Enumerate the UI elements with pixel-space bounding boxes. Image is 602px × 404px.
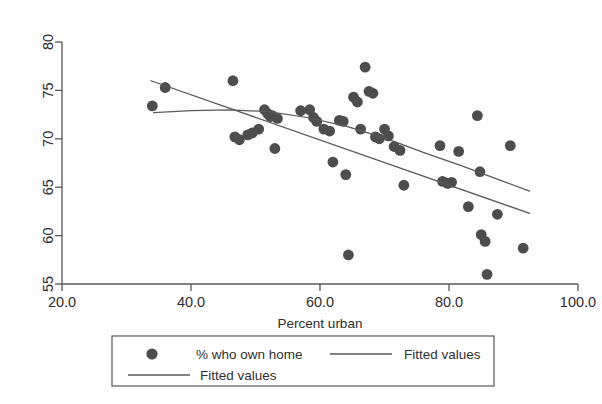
x-axis-tick-group: 20.040.060.080.0100.0 (48, 284, 596, 310)
scatter-point (463, 201, 474, 212)
x-tick-label: 40.0 (177, 294, 205, 310)
legend-marker-icon (146, 348, 157, 359)
scatter-point (367, 88, 378, 99)
y-tick-label: 65 (40, 179, 56, 195)
scatter-point (340, 169, 351, 180)
scatter-plot-figure: 556065707580 20.040.060.080.0100.0 Perce… (0, 0, 602, 404)
x-axis-title: Percent urban (278, 316, 363, 331)
y-tick-label: 70 (40, 131, 56, 147)
legend-label-fitted-1: Fitted values (404, 347, 481, 362)
scatter-point (328, 157, 339, 168)
y-axis-tick-group: 556065707580 (40, 34, 62, 292)
scatter-point (360, 62, 371, 73)
chart-canvas: 556065707580 20.040.060.080.0100.0 Perce… (0, 0, 602, 404)
scatter-point (453, 146, 464, 157)
scatter-point (272, 113, 283, 124)
x-tick-label: 80.0 (435, 294, 463, 310)
x-tick-label: 60.0 (306, 294, 334, 310)
scatter-point (324, 126, 335, 137)
scatter-point-group (147, 62, 529, 280)
scatter-point (492, 209, 503, 220)
y-tick-label: 55 (40, 276, 56, 292)
legend: % who own home Fitted values Fitted valu… (112, 336, 494, 386)
scatter-point (253, 124, 264, 135)
legend-label-fitted-2: Fitted values (200, 368, 277, 383)
y-tick-label: 60 (40, 228, 56, 244)
y-tick-label: 80 (40, 34, 56, 50)
scatter-point (147, 100, 158, 111)
scatter-point (269, 143, 280, 154)
scatter-point (518, 243, 529, 254)
scatter-point (343, 250, 354, 261)
scatter-point (395, 145, 406, 156)
scatter-point (352, 97, 363, 108)
y-tick-label: 75 (40, 82, 56, 98)
x-tick-label: 100.0 (560, 294, 596, 310)
legend-label-own-home: % who own home (196, 347, 303, 362)
scatter-point (435, 140, 446, 151)
scatter-point (228, 75, 239, 86)
fitted-line-group (151, 81, 530, 214)
scatter-point (505, 140, 516, 151)
scatter-point (398, 180, 409, 191)
fitted-line-linear (151, 81, 530, 214)
scatter-point (480, 236, 491, 247)
scatter-point (482, 269, 493, 280)
scatter-point (472, 110, 483, 121)
x-tick-label: 20.0 (48, 294, 76, 310)
